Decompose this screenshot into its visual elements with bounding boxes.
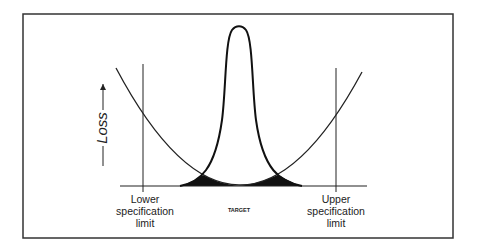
svg-text:Lower: Lower [131,193,160,205]
lower-spec-label: Lower specification limit [116,193,174,229]
frame-border [23,14,453,238]
arrow-up-icon [100,84,106,90]
upper-spec-label: Upper specification limit [307,193,365,229]
loss-curve [116,68,362,185]
taguchi-loss-diagram: Loss Lower specification limit TARGET Up… [0,0,477,249]
svg-text:limit: limit [327,217,346,229]
svg-text:limit: limit [136,217,155,229]
svg-text:specification: specification [116,205,174,217]
svg-text:Loss: Loss [93,112,110,144]
svg-text:specification: specification [307,205,365,217]
loss-axis-label: Loss [93,84,110,166]
distribution-curve [180,26,302,186]
svg-text:Upper: Upper [322,193,351,205]
target-label: TARGET [228,207,251,213]
